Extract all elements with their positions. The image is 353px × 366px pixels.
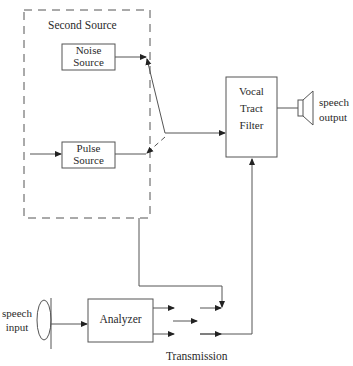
pulse-source-label: Pulse Source xyxy=(62,142,115,166)
speech-output-line1: speech xyxy=(319,95,349,110)
noise-source-label: Noise Source xyxy=(62,44,115,68)
speech-input-label: speech input xyxy=(2,306,32,334)
vocal-tract-line2: Tract xyxy=(226,100,277,117)
vocal-tract-filter-label: Vocal Tract Filter xyxy=(226,83,277,134)
noise-source-line1: Noise xyxy=(62,44,115,56)
second-source-feed-line xyxy=(139,218,222,307)
diagram-canvas xyxy=(0,0,353,366)
speech-output-line2: output xyxy=(319,110,349,125)
noise-source-line2: Source xyxy=(62,56,115,68)
second-source-container xyxy=(24,10,150,218)
speaker-icon xyxy=(298,91,313,125)
vocal-tract-line1: Vocal xyxy=(226,83,277,100)
speech-output-label: speech output xyxy=(319,95,349,125)
second-source-label: Second Source xyxy=(48,19,117,32)
microphone-icon xyxy=(37,298,51,349)
vocal-tract-line3: Filter xyxy=(226,117,277,134)
pulse-source-line2: Source xyxy=(62,154,115,166)
speech-input-line2: input xyxy=(2,320,32,334)
analyzer-label: Analyzer xyxy=(88,313,153,326)
speech-input-line1: speech xyxy=(2,306,32,320)
pulse-source-line1: Pulse xyxy=(62,142,115,154)
transmission-label: Transmission xyxy=(166,350,228,363)
